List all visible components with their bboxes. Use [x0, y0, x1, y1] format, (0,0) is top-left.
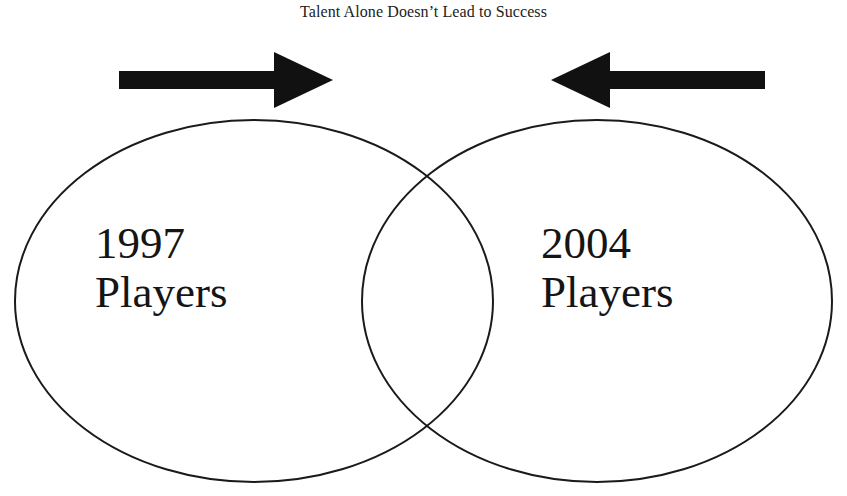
arrow-right-icon [119, 52, 333, 108]
set-circle-1997 [15, 120, 493, 482]
set-label-right: 2004 Players [541, 219, 673, 317]
set-label-left-year: 1997 [95, 219, 227, 268]
set-label-left: 1997 Players [95, 219, 227, 317]
set-label-left-noun: Players [95, 268, 227, 317]
set-label-right-year: 2004 [541, 219, 673, 268]
arrow-left-icon [551, 52, 765, 108]
set-label-right-noun: Players [541, 268, 673, 317]
